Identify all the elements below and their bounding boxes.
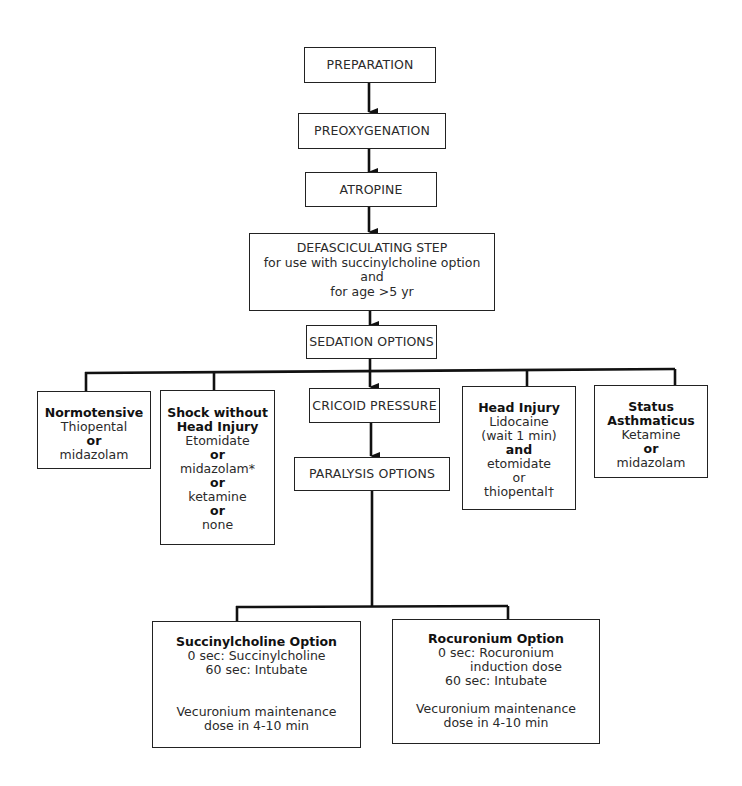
defasciculating-step: DEFASCICULATING STEP for use with succin… xyxy=(249,233,495,311)
asthmaticus-drug-ketamine: Ketamine xyxy=(595,428,707,442)
rocuronium-time-60: 60 sec: Intubate xyxy=(393,674,599,688)
defasciculating-and: and xyxy=(250,270,494,285)
asthmaticus-drug-midazolam: midazolam xyxy=(595,456,707,470)
defasciculating-condition-1: for use with succinylcholine option xyxy=(250,256,494,271)
succinylcholine-time-60: 60 sec: Intubate xyxy=(153,663,360,677)
asthmaticus-title-2: Asthmaticus xyxy=(595,414,707,428)
atropine-step: ATROPINE xyxy=(305,172,437,207)
paralysis-rocuronium-option: Rocuronium Option 0 sec: Rocuronium indu… xyxy=(392,619,600,744)
sedation-shock-without-head-injury: Shock without Head Injury Etomidate or m… xyxy=(160,390,275,545)
sedation-options-step: SEDATION OPTIONS xyxy=(306,325,437,359)
spacer xyxy=(153,677,360,705)
shock-drug-none: none xyxy=(161,518,274,532)
shock-title-1: Shock without xyxy=(161,406,274,420)
shock-drug-etomidate: Etomidate xyxy=(161,434,274,448)
shock-or-2: or xyxy=(161,476,274,490)
rocuronium-time-0: 0 sec: Rocuronium xyxy=(393,646,599,660)
paralysis-succinylcholine-option: Succinylcholine Option 0 sec: Succinylch… xyxy=(152,621,361,748)
succinylcholine-maintenance-2: dose in 4-10 min xyxy=(153,719,360,733)
rocuronium-maintenance-1: Vecuronium maintenance xyxy=(393,702,599,716)
succinylcholine-maintenance-1: Vecuronium maintenance xyxy=(153,705,360,719)
preoxygenation-step: PREOXYGENATION xyxy=(298,113,446,149)
head-injury-drug-etomidate: etomidate xyxy=(463,457,575,471)
preparation-step: PREPARATION xyxy=(304,47,436,83)
sedation-head-injury: Head Injury Lidocaine (wait 1 min) and e… xyxy=(462,386,576,510)
atropine-label: ATROPINE xyxy=(339,183,402,197)
normotensive-drug-1: Thiopental xyxy=(38,420,150,434)
head-injury-or: or xyxy=(463,471,575,485)
succinylcholine-title: Succinylcholine Option xyxy=(153,635,360,649)
defasciculating-condition-2: for age >5 yr xyxy=(250,285,494,300)
head-injury-drug-lidocaine: Lidocaine xyxy=(463,415,575,429)
shock-or-1: or xyxy=(161,448,274,462)
paralysis-options-step: PARALYSIS OPTIONS xyxy=(294,457,450,491)
shock-drug-ketamine: ketamine xyxy=(161,490,274,504)
paralysis-options-label: PARALYSIS OPTIONS xyxy=(309,467,435,481)
head-injury-drug-thiopental: thiopental† xyxy=(463,485,575,499)
normotensive-title: Normotensive xyxy=(38,406,150,420)
rocuronium-maintenance-2: dose in 4-10 min xyxy=(393,716,599,730)
normotensive-or: or xyxy=(38,434,150,448)
preparation-label: PREPARATION xyxy=(327,58,414,72)
cricoid-pressure-label: CRICOID PRESSURE xyxy=(312,399,436,413)
sedation-status-asthmaticus: Status Asthmaticus Ketamine or midazolam xyxy=(594,385,708,478)
rocuronium-title: Rocuronium Option xyxy=(393,632,599,646)
shock-title-2: Head Injury xyxy=(161,420,274,434)
rocuronium-induction-dose: induction dose xyxy=(393,660,599,674)
head-injury-and: and xyxy=(463,443,575,457)
spacer xyxy=(393,688,599,702)
head-injury-title: Head Injury xyxy=(463,401,575,415)
asthmaticus-or: or xyxy=(595,442,707,456)
defasciculating-title: DEFASCICULATING STEP xyxy=(250,241,494,256)
preoxygenation-label: PREOXYGENATION xyxy=(314,124,430,138)
head-injury-wait: (wait 1 min) xyxy=(463,429,575,443)
sedation-normotensive: Normotensive Thiopental or midazolam xyxy=(37,391,151,469)
normotensive-drug-2: midazolam xyxy=(38,448,150,462)
cricoid-pressure-step: CRICOID PRESSURE xyxy=(309,388,440,423)
asthmaticus-title-1: Status xyxy=(595,400,707,414)
shock-drug-midazolam: midazolam* xyxy=(161,462,274,476)
sedation-options-label: SEDATION OPTIONS xyxy=(309,335,434,349)
succinylcholine-time-0: 0 sec: Succinylcholine xyxy=(153,649,360,663)
shock-or-3: or xyxy=(161,504,274,518)
